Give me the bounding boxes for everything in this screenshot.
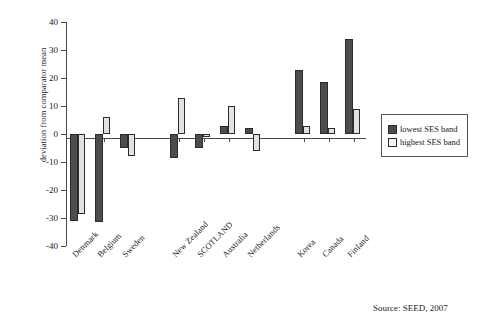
bar-denmark-highest [78,134,86,214]
bar-sweden-highest [128,134,136,156]
bar-sweden-lowest [120,134,128,148]
bar-australia-highest [228,106,236,134]
y-tick-label: -30 [46,213,58,223]
legend-label-lowest: lowest SES band [400,124,458,134]
bar-chart: deviation from comparator mean 403020100… [0,0,495,336]
legend-swatch-icon-lowest [388,125,397,134]
y-tick-label: -20 [46,185,58,195]
y-axis-line [66,22,67,246]
y-tick [61,218,66,219]
x-tick [354,138,355,142]
y-axis-label-container: deviation from comparator mean [8,40,30,250]
source-note: Source: SEED, 2007 [373,303,448,313]
bar-netherlands-lowest [245,128,253,134]
bar-korea-lowest [295,70,303,134]
x-tick [229,138,230,142]
bar-new-zealand-lowest [170,134,178,158]
y-tick-label: 10 [49,101,58,111]
bar-scotland-lowest [195,134,203,148]
y-tick [61,106,66,107]
y-tick [61,134,66,135]
y-tick-label: 0 [54,129,59,139]
legend: lowest SES band highest SES band [381,114,468,157]
legend-item-highest: highest SES band [388,137,460,147]
x-tick [304,138,305,142]
x-tick [204,138,205,142]
y-tick-label: -10 [46,157,58,167]
bar-belgium-highest [103,117,111,134]
y-tick [61,22,66,23]
bar-finland-lowest [345,39,353,134]
y-axis-label: deviation from comparator mean [38,0,48,210]
plot-area: 403020100-10-20-30-40 [66,22,366,246]
y-tick [61,246,66,247]
bar-australia-lowest [220,126,228,134]
legend-item-lowest: lowest SES band [388,124,460,134]
bar-scotland-highest [203,134,211,137]
y-tick [61,78,66,79]
bar-denmark-lowest [70,134,78,221]
x-tick [179,138,180,142]
legend-label-highest: highest SES band [400,137,460,147]
y-tick-label: -40 [46,241,58,251]
bar-new-zealand-highest [178,98,186,134]
bar-korea-highest [303,126,311,134]
y-tick [61,162,66,163]
zero-baseline [66,138,366,139]
legend-swatch-icon-highest [388,138,397,147]
x-tick [329,138,330,142]
y-tick [61,190,66,191]
bar-finland-highest [353,109,361,134]
y-tick-label: 40 [49,17,58,27]
bar-belgium-lowest [95,134,103,222]
bar-canada-highest [328,128,336,134]
bar-canada-lowest [320,82,328,134]
bar-netherlands-highest [253,134,261,151]
y-tick [61,50,66,51]
x-tick [104,138,105,142]
y-tick-label: 30 [49,45,58,55]
y-tick-label: 20 [49,73,58,83]
